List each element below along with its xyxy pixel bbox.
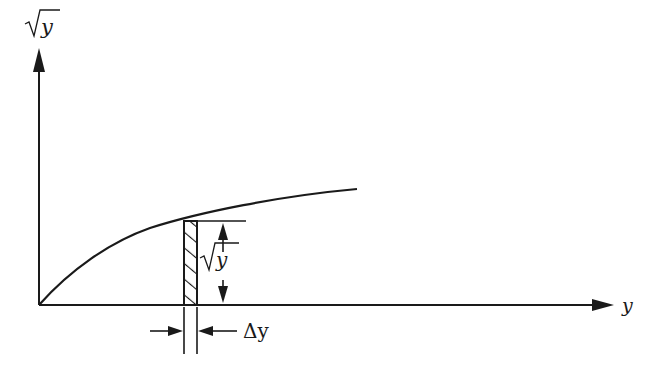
arrow-up-icon — [218, 223, 228, 240]
svg-text:y: y — [40, 15, 54, 39]
hatched-strip — [184, 221, 197, 305]
horizontal-axis: y — [39, 294, 633, 316]
strip-height-label: y — [215, 248, 228, 272]
y-axis-label: y — [25, 10, 60, 39]
x-axis-label: y — [621, 294, 633, 316]
height-dimension: y — [197, 221, 246, 303]
sqrt-area-diagram: y y y Δy — [0, 0, 648, 378]
strip-width-label: Δy — [243, 319, 269, 343]
vertical-axis — [33, 48, 45, 305]
x-axis-arrowhead-icon — [592, 299, 614, 311]
arrow-down-icon — [218, 286, 228, 303]
width-dimension: Δy — [150, 307, 269, 354]
y-axis-arrowhead-icon — [33, 48, 45, 72]
arrow-right-icon — [168, 326, 183, 336]
arrow-left-icon — [198, 326, 213, 336]
